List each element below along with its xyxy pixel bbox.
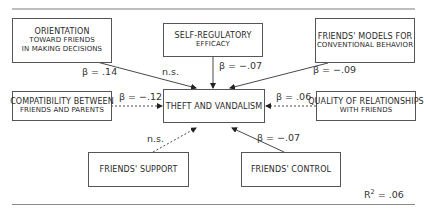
box-text: Theft and vandalism: [166, 102, 263, 111]
box-text: efficacy: [196, 40, 230, 49]
coef-friends-control: β = −.07: [257, 132, 300, 143]
box-friends-support: Friends' support: [88, 152, 189, 187]
box-text: in making decisions: [22, 45, 102, 54]
r-squared-value: = .06: [375, 189, 404, 200]
box-text: Compatibility between: [10, 97, 114, 106]
box-orientation-toward-friends: Orientation toward friends in making dec…: [12, 18, 112, 63]
box-friends-control: Friends' control: [241, 152, 341, 187]
box-text: with friends: [340, 106, 392, 115]
box-friends-models: Friends' models for conventional behavio…: [315, 18, 415, 63]
coef-compatibility: β = −.12: [119, 91, 162, 102]
label-ns-top: n.s.: [162, 66, 179, 77]
box-text: Orientation: [35, 27, 90, 36]
coef-self-regulatory: β = −.07: [219, 60, 262, 71]
r-squared-symbol: R: [364, 189, 371, 200]
box-text: conventional behavior: [317, 41, 413, 50]
box-quality-of-relationships: Quality of relationships with friends: [316, 91, 416, 121]
coef-friends-models: β = −.09: [313, 64, 356, 75]
box-theft-and-vandalism: Theft and vandalism: [163, 89, 265, 123]
box-text: friends and parents: [20, 106, 104, 115]
box-text: Friends' control: [251, 165, 331, 174]
coef-quality: β = .06: [276, 91, 311, 102]
r-squared: R2 = .06: [364, 188, 404, 200]
box-compatibility: Compatibility between friends and parent…: [12, 91, 112, 121]
box-text: Friends' models for: [318, 32, 412, 41]
box-text: Self-regulatory: [175, 31, 252, 40]
coef-friends-support: n.s.: [147, 133, 164, 144]
coef-orientation: β = .14: [82, 66, 117, 77]
box-text: toward friends: [29, 36, 94, 45]
box-text: Friends' support: [100, 165, 178, 174]
box-self-regulatory-efficacy: Self-regulatory efficacy: [163, 23, 263, 57]
box-text: Quality of relationships: [308, 97, 424, 106]
